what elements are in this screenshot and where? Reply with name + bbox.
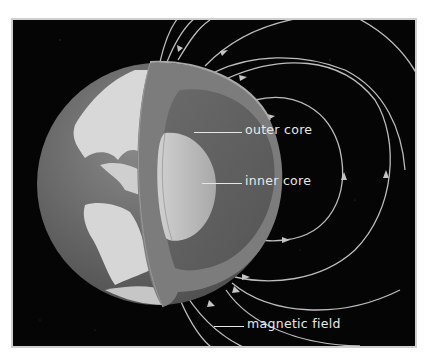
outer-core-label: outer core xyxy=(245,124,312,137)
inner-core-leader xyxy=(202,183,242,184)
magnetic-field-label: magnetic field xyxy=(247,318,341,331)
magnetic-field-leader xyxy=(214,326,244,327)
outer-core-leader xyxy=(194,132,242,133)
inner-core-label: inner core xyxy=(245,175,311,188)
diagram-panel: outer core inner core magnetic field xyxy=(13,20,415,346)
